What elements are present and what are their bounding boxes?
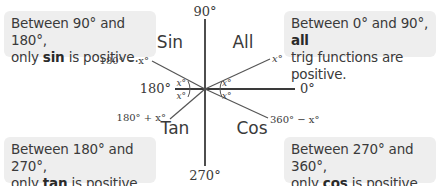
axis-label-180: 180° xyxy=(140,81,171,96)
ray-label-q2: 180° − x° xyxy=(100,55,149,66)
ray-label-q1: x° xyxy=(272,53,283,64)
ray-q4 xyxy=(205,89,268,118)
quadrant-label-cos: Cos xyxy=(236,118,267,138)
ray-q3 xyxy=(170,89,205,119)
ray-label-q4: 360° − x° xyxy=(270,114,319,125)
ray-label-q3: 180° + x° xyxy=(117,112,166,123)
quadrant-label-sin: Sin xyxy=(157,32,183,52)
angle-label: x° xyxy=(222,91,232,101)
angle-label: x° xyxy=(176,91,186,101)
ray-q1 xyxy=(205,59,270,89)
axis-label-270: 270° xyxy=(189,168,220,183)
axis-label-90: 90° xyxy=(193,4,216,19)
axis-label-0: 0° xyxy=(300,81,315,96)
cast-diagram: 90° 0° 270° 180° Sin All Tan Cos x° 180°… xyxy=(0,0,440,186)
quadrant-label-all: All xyxy=(232,32,253,52)
angle-label: x° xyxy=(222,78,232,88)
angle-label: x° xyxy=(176,78,186,88)
